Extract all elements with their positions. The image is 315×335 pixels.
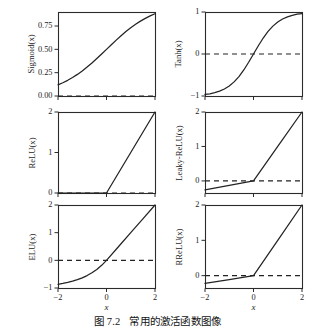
y-tick-label: 0.00 bbox=[38, 91, 53, 100]
plot-panel-leaky-relu: 012 bbox=[205, 112, 304, 219]
y-tick-label: 0 bbox=[195, 49, 199, 58]
x-tick-label: 0 bbox=[104, 293, 108, 302]
y-tick-label: −1 bbox=[44, 283, 53, 292]
plot-frame bbox=[59, 113, 156, 194]
y-tick-label: 0.25 bbox=[38, 68, 53, 77]
data-curve-rrelu bbox=[205, 205, 302, 283]
x-tick-label: −2 bbox=[201, 293, 210, 302]
y-axis-title-elu: ELU(x) bbox=[26, 205, 36, 288]
data-curve-relu bbox=[58, 112, 155, 193]
x-tick-label: 0 bbox=[251, 293, 255, 302]
figure-caption: 图 7.2常用的激活函数图像 bbox=[0, 313, 315, 328]
y-axis-title-relu: ReLU(x) bbox=[26, 112, 36, 193]
figure-activation-functions: 0.000.250.500.75Sigmoid(x)−101Tanh(x)012… bbox=[0, 0, 315, 335]
x-tick-label: 2 bbox=[153, 293, 157, 302]
data-curve-elu bbox=[58, 205, 155, 284]
figure-caption-number: 图 7.2 bbox=[94, 316, 121, 327]
y-tick-label: 1 bbox=[195, 236, 199, 245]
x-axis-title-rrelu: x bbox=[205, 302, 302, 312]
y-tick-label: 2 bbox=[195, 107, 199, 116]
data-curve-sigmoid bbox=[58, 14, 155, 85]
plot-frame bbox=[59, 206, 156, 289]
figure-caption-text: 常用的激活函数图像 bbox=[129, 316, 221, 327]
plot-frame bbox=[59, 13, 156, 97]
y-axis-title-sigmoid: Sigmoid(x) bbox=[26, 12, 36, 96]
y-axis-title-rrelu: RReLU(x) bbox=[173, 205, 183, 288]
y-tick-label: 0 bbox=[48, 188, 52, 197]
y-tick-label: −1 bbox=[191, 91, 200, 100]
y-tick-label: 0.50 bbox=[38, 45, 53, 54]
y-tick-label: 2 bbox=[195, 200, 199, 209]
plot-panel-relu: 012 bbox=[58, 112, 157, 219]
y-tick-label: 1 bbox=[48, 228, 52, 237]
y-tick-label: 0 bbox=[195, 176, 199, 185]
plot-panel-sigmoid: 0.000.250.500.75 bbox=[58, 12, 157, 122]
x-axis-title-elu: x bbox=[58, 302, 155, 312]
y-axis-title-leaky-relu: Leaky-ReLU(x) bbox=[173, 112, 183, 193]
y-tick-label: 2 bbox=[48, 200, 52, 209]
y-tick-label: 0 bbox=[48, 256, 52, 265]
y-tick-label: 1 bbox=[195, 142, 199, 151]
data-curve-leaky-relu bbox=[205, 112, 302, 190]
y-tick-label: 0.75 bbox=[38, 21, 53, 30]
plot-panel-tanh: −101 bbox=[205, 12, 304, 122]
y-tick-label: 0 bbox=[195, 271, 199, 280]
x-tick-label: 2 bbox=[300, 293, 304, 302]
plot-panel-elu: −1012−202 bbox=[58, 205, 157, 314]
y-axis-title-tanh: Tanh(x) bbox=[173, 12, 183, 96]
y-tick-label: 2 bbox=[48, 107, 52, 116]
x-tick-label: −2 bbox=[54, 293, 63, 302]
y-tick-label: 1 bbox=[48, 148, 52, 157]
plot-panel-rrelu: 012−202 bbox=[205, 205, 304, 314]
y-tick-label: 1 bbox=[195, 7, 199, 16]
